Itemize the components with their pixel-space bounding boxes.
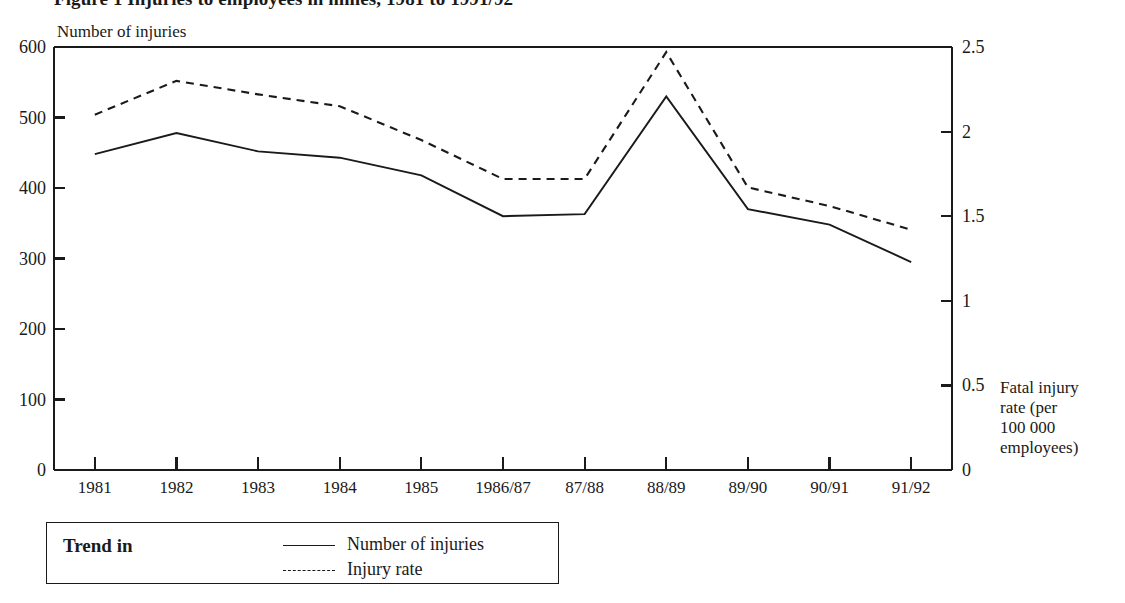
right-axis-tick-label: 1.5 (962, 207, 1012, 225)
right-axis-title: Fatal injury rate (per 100 000 employees… (1000, 378, 1120, 458)
right-axis-tick-label: 2.5 (962, 38, 1012, 56)
left-axis-tick-label: 300 (0, 250, 46, 268)
right-axis-tick-label: 1 (962, 292, 1012, 310)
right-axis-title-line: Fatal injury (1000, 378, 1120, 398)
x-axis-tick-label: 1985 (404, 478, 438, 498)
left-axis-tick-label: 100 (0, 391, 46, 409)
chart-plot (0, 0, 1125, 603)
legend-solid-line-icon (283, 539, 335, 551)
right-axis-tick-label: 0 (962, 461, 1012, 479)
right-axis-title-line: rate (per (1000, 398, 1120, 418)
legend-dashed-line-icon (283, 564, 335, 576)
legend-entry-label: Injury rate (347, 559, 422, 579)
axes-group (54, 47, 952, 470)
x-axis-tick-label: 1983 (241, 478, 275, 498)
legend-heading: Trend in (63, 535, 133, 557)
x-axis-tick-label: 1986/87 (475, 478, 531, 498)
right-axis-title-line: employees) (1000, 438, 1120, 458)
x-axis-tick-label: 90/91 (810, 478, 849, 498)
x-axis-tick-label: 91/92 (892, 478, 931, 498)
left-axis-tick-label: 0 (0, 461, 46, 479)
left-axis-tick-label: 600 (0, 38, 46, 56)
x-axis-tick-label: 88/89 (647, 478, 686, 498)
x-axis-tick-label: 87/88 (565, 478, 604, 498)
left-axis-tick-label: 200 (0, 320, 46, 338)
x-axis-tick-label: 1981 (78, 478, 112, 498)
series-line-1 (95, 96, 911, 262)
x-axis-tick-label: 1984 (323, 478, 357, 498)
legend-entry-injury-rate: Injury rate (283, 558, 422, 580)
series-line-2 (95, 52, 911, 230)
legend-entry-label: Number of injuries (347, 534, 484, 554)
chart-legend: Trend in Number of injuries Injury rate (46, 522, 559, 584)
right-axis-title-line: 100 000 (1000, 418, 1120, 438)
left-axis-tick-label: 400 (0, 179, 46, 197)
series-group (95, 52, 911, 262)
figure-container: Figure 1 Injuries to employees in mines,… (0, 0, 1125, 603)
legend-entry-number-of-injuries: Number of injuries (283, 533, 484, 555)
left-axis-tick-label: 500 (0, 109, 46, 127)
right-axis-tick-label: 2 (962, 123, 1012, 141)
x-axis-tick-label: 1982 (159, 478, 193, 498)
x-axis-tick-label: 89/90 (729, 478, 768, 498)
